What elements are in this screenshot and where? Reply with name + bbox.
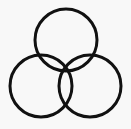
three-circle-diagram — [0, 0, 131, 129]
